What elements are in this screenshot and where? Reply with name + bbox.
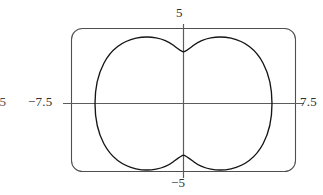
x-axis-max-label: 7.5 [300, 95, 317, 108]
x-axis-min-label: −7.5 [28, 95, 52, 108]
clipped-neighbor-label: .5 [0, 95, 6, 108]
y-axis-min-label: −5 [171, 176, 185, 189]
y-axis-max-label: 5 [176, 6, 183, 19]
figure-root: .5 −7.5 7.5 5 −5 [0, 0, 323, 195]
